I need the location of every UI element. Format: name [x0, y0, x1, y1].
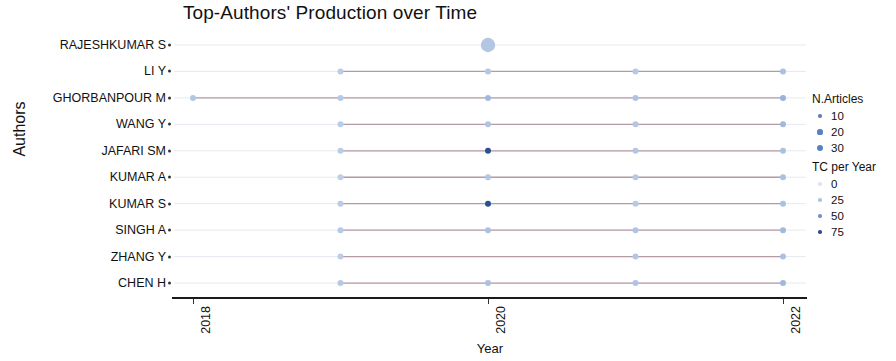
chart-container: Top-Authors' Production over Time Author… — [0, 0, 896, 361]
series-jafari-sm — [174, 148, 806, 154]
series-singh-a — [174, 227, 806, 233]
data-point[interactable] — [780, 254, 786, 260]
data-point[interactable] — [633, 68, 639, 74]
y-axis-tick — [168, 202, 171, 205]
x-axis-label-2022: 2022 — [789, 306, 803, 334]
data-point[interactable] — [780, 68, 786, 74]
data-point[interactable] — [633, 201, 639, 207]
legend-color-dot-icon — [812, 214, 828, 218]
data-point[interactable] — [485, 227, 491, 233]
data-point[interactable] — [485, 201, 491, 207]
legend-size-item-10[interactable]: 10 — [812, 108, 896, 124]
legend-color-items: 0255075 — [812, 176, 896, 240]
data-point[interactable] — [338, 174, 344, 180]
series-chen-h — [174, 280, 806, 286]
data-point[interactable] — [338, 280, 344, 286]
y-axis-tick — [168, 229, 171, 232]
legend-color-dot-icon — [812, 230, 828, 234]
series-wang-y — [174, 121, 806, 127]
series-rajeshkumar-s — [174, 38, 806, 52]
data-point[interactable] — [338, 254, 344, 260]
data-point[interactable] — [633, 121, 639, 127]
legend-size-item-30[interactable]: 30 — [812, 140, 896, 156]
legend-color-label: 25 — [831, 194, 844, 206]
legend-color-item-75[interactable]: 75 — [812, 224, 896, 240]
legend-size-label: 30 — [831, 142, 844, 154]
y-axis-tick — [168, 176, 171, 179]
data-point[interactable] — [780, 121, 786, 127]
legend-color-item-25[interactable]: 25 — [812, 192, 896, 208]
legend-color-title: TC per Year — [812, 160, 896, 174]
data-point[interactable] — [338, 201, 344, 207]
y-axis-tick — [168, 44, 171, 47]
data-point[interactable] — [338, 227, 344, 233]
data-point[interactable] — [633, 254, 639, 260]
legend-color-label: 0 — [831, 178, 837, 190]
data-point[interactable] — [485, 68, 491, 74]
legend-color-item-50[interactable]: 50 — [812, 208, 896, 224]
data-point[interactable] — [485, 280, 491, 286]
data-point[interactable] — [485, 95, 491, 101]
data-point[interactable] — [780, 148, 786, 154]
legend-size-title: N.Articles — [812, 92, 896, 106]
data-point[interactable] — [338, 148, 344, 154]
y-axis-tick — [168, 149, 171, 152]
data-point[interactable] — [485, 121, 491, 127]
legend-color-item-0[interactable]: 0 — [812, 176, 896, 192]
legend-color-dot-icon — [812, 182, 828, 186]
y-axis-tick — [168, 123, 171, 126]
series-kumar-a — [174, 174, 806, 180]
data-point[interactable] — [190, 95, 196, 101]
data-point[interactable] — [633, 95, 639, 101]
chart-legend: N.Articles 102030 TC per Year 0255075 — [812, 92, 896, 240]
data-point[interactable] — [780, 174, 786, 180]
plot-area — [0, 0, 896, 361]
legend-size-items: 102030 — [812, 108, 896, 156]
legend-size-dot-icon — [812, 145, 828, 152]
legend-size-label: 20 — [831, 126, 844, 138]
data-point[interactable] — [633, 148, 639, 154]
data-point[interactable] — [633, 174, 639, 180]
data-point[interactable] — [780, 95, 786, 101]
data-point[interactable] — [633, 280, 639, 286]
legend-size-label: 10 — [831, 110, 844, 122]
data-point[interactable] — [780, 227, 786, 233]
data-point[interactable] — [338, 95, 344, 101]
data-point[interactable] — [485, 148, 491, 154]
data-point[interactable] — [485, 174, 491, 180]
data-point[interactable] — [780, 280, 786, 286]
legend-color-label: 50 — [831, 210, 844, 222]
data-point[interactable] — [338, 121, 344, 127]
x-axis-tick-2022 — [783, 299, 784, 304]
series-zhang-y — [174, 254, 806, 260]
legend-color-dot-icon — [812, 198, 828, 202]
y-axis-tick — [168, 255, 171, 258]
x-axis-line — [172, 297, 807, 299]
legend-size-item-20[interactable]: 20 — [812, 124, 896, 140]
data-point[interactable] — [633, 227, 639, 233]
legend-size-dot-icon — [812, 129, 828, 134]
x-axis-tick-2020 — [488, 299, 489, 304]
x-axis-title: Year — [170, 341, 810, 356]
data-point[interactable] — [338, 68, 344, 74]
y-axis-tick — [168, 96, 171, 99]
data-point[interactable] — [481, 38, 495, 52]
series-li-y — [174, 68, 806, 74]
series-kumar-s — [174, 201, 806, 207]
y-axis-tick — [168, 70, 171, 73]
series-ghorbanpour-m — [174, 95, 806, 101]
data-point[interactable] — [780, 201, 786, 207]
x-axis-tick-2018 — [193, 299, 194, 304]
legend-color-label: 75 — [831, 226, 844, 238]
y-axis-tick — [168, 282, 171, 285]
legend-size-dot-icon — [812, 114, 828, 118]
x-axis-label-2018: 2018 — [199, 306, 213, 334]
x-axis-label-2020: 2020 — [494, 306, 508, 334]
